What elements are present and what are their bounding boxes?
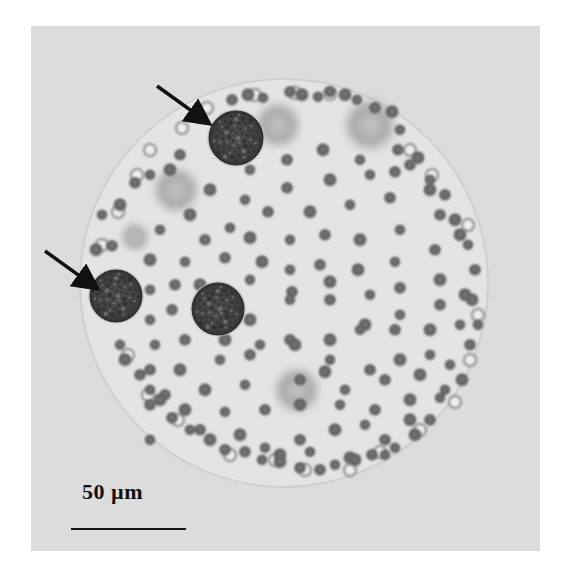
somatic-cell — [245, 165, 256, 176]
somatic-cell — [106, 240, 118, 252]
light-cell — [463, 353, 478, 368]
somatic-cell — [241, 88, 254, 101]
somatic-cell — [273, 455, 286, 468]
somatic-cell — [113, 198, 126, 211]
somatic-cell — [323, 173, 336, 186]
somatic-cell — [259, 404, 271, 416]
somatic-cell — [145, 170, 156, 181]
somatic-cell — [340, 385, 351, 396]
somatic-cell — [145, 385, 156, 396]
somatic-cell — [203, 183, 216, 196]
somatic-cell — [389, 324, 401, 336]
somatic-cell — [288, 338, 301, 351]
somatic-cell — [424, 414, 436, 426]
somatic-cell — [385, 105, 398, 118]
somatic-cell — [445, 360, 456, 371]
somatic-cell — [338, 88, 351, 101]
somatic-cell — [425, 350, 436, 361]
somatic-cell — [408, 428, 421, 441]
diffuse-patch — [340, 95, 400, 155]
somatic-cell — [463, 240, 474, 251]
somatic-cell — [434, 209, 446, 221]
somatic-cell — [219, 444, 231, 456]
somatic-cell — [379, 374, 391, 386]
somatic-cell — [243, 231, 256, 244]
somatic-cell — [303, 205, 316, 218]
somatic-cell — [319, 229, 331, 241]
somatic-cell — [351, 263, 364, 276]
somatic-cell — [316, 143, 329, 156]
somatic-cell — [348, 453, 361, 466]
somatic-cell — [433, 273, 446, 286]
somatic-cell — [395, 225, 406, 236]
somatic-cell — [353, 233, 366, 246]
somatic-cell — [364, 364, 376, 376]
somatic-cell — [365, 170, 376, 181]
somatic-cell — [294, 374, 306, 386]
scale-bar — [71, 528, 186, 530]
somatic-cell — [194, 424, 206, 436]
somatic-cell — [281, 154, 293, 166]
somatic-cell — [473, 320, 484, 331]
somatic-cell — [330, 460, 341, 471]
somatic-cell — [258, 93, 269, 104]
somatic-cell — [240, 380, 251, 391]
somatic-cell — [89, 243, 102, 256]
somatic-cell — [324, 294, 336, 306]
somatic-cell — [360, 420, 371, 431]
somatic-cell — [323, 333, 336, 346]
somatic-cell — [423, 323, 436, 336]
gonidium-top — [207, 109, 265, 167]
somatic-cell — [366, 449, 378, 461]
somatic-cell — [198, 383, 211, 396]
somatic-cell — [244, 349, 256, 361]
somatic-cell — [294, 462, 306, 474]
somatic-cell — [328, 423, 341, 436]
somatic-cell — [305, 447, 316, 458]
somatic-cell — [425, 175, 436, 186]
somatic-cell — [352, 95, 363, 106]
somatic-cell — [257, 455, 268, 466]
somatic-cell — [403, 413, 416, 426]
somatic-cell — [355, 325, 366, 336]
somatic-cell — [163, 163, 176, 176]
somatic-cell — [390, 257, 401, 268]
somatic-cell — [439, 189, 451, 201]
somatic-cell — [429, 244, 441, 256]
somatic-cell — [129, 177, 141, 189]
somatic-cell — [145, 285, 156, 296]
gonidium-center — [190, 281, 246, 337]
scale-bar-label: 50 µm — [82, 479, 143, 505]
somatic-cell — [314, 259, 326, 271]
somatic-cell — [403, 393, 416, 406]
somatic-cell — [255, 255, 268, 268]
somatic-cell — [284, 86, 296, 98]
somatic-cell — [395, 310, 406, 321]
somatic-cell — [145, 315, 156, 326]
somatic-cell — [174, 149, 186, 161]
somatic-cell — [134, 369, 146, 381]
somatic-cell — [199, 234, 211, 246]
somatic-cell — [355, 155, 366, 166]
somatic-cell — [379, 434, 391, 446]
somatic-cell — [345, 200, 356, 211]
somatic-cell — [285, 295, 296, 306]
somatic-cell — [185, 425, 196, 436]
somatic-cell — [395, 125, 406, 136]
somatic-cell — [226, 94, 238, 106]
somatic-cell — [394, 282, 406, 294]
somatic-cell — [153, 393, 166, 406]
somatic-cell — [262, 206, 274, 218]
light-cell — [175, 121, 190, 136]
somatic-cell — [145, 435, 156, 446]
somatic-cell — [413, 368, 426, 381]
somatic-cell — [295, 88, 308, 101]
somatic-cell — [369, 102, 381, 114]
somatic-cell — [150, 340, 161, 351]
somatic-cell — [318, 365, 331, 378]
somatic-cell — [255, 340, 266, 351]
gonidium-left — [88, 268, 144, 324]
light-cell — [143, 143, 158, 158]
somatic-cell — [239, 446, 251, 458]
somatic-cell — [180, 257, 191, 268]
